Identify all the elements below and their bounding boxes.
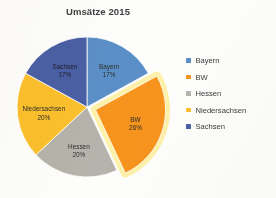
pie-slice-label-value: 20%: [73, 151, 86, 158]
legend-item-label: Hessen: [196, 89, 222, 98]
pie-slice-label-name: Hessen: [68, 143, 90, 150]
pie-chart-figure: Umsätze 2015 Bayern17%BW26%Hessen20%Nied…: [0, 0, 276, 198]
legend-swatch-icon: [186, 124, 191, 129]
pie-slice-label-name: Niedersachsen: [23, 105, 66, 112]
legend-swatch-icon: [186, 58, 191, 63]
legend-item-label: Sachsen: [196, 122, 226, 131]
legend-item-bayern[interactable]: Bayern: [186, 56, 272, 65]
legend-item-label: BW: [196, 73, 208, 82]
legend-item-label: Bayern: [196, 56, 220, 65]
legend-item-bw[interactable]: BW: [186, 73, 272, 82]
legend-swatch-icon: [186, 91, 191, 96]
pie-slice-label-name: Bayern: [99, 63, 120, 71]
pie-slice-label-name: BW: [130, 116, 141, 123]
legend-item-label: Niedersachsen: [196, 106, 247, 115]
legend-item-niedersachsen[interactable]: Niedersachsen: [186, 106, 272, 115]
legend-swatch-icon: [186, 108, 191, 113]
pie-plot-area: Bayern17%BW26%Hessen20%Niedersachsen20%S…: [0, 20, 196, 198]
legend-item-hessen[interactable]: Hessen: [186, 89, 272, 98]
pie-svg: Bayern17%BW26%Hessen20%Niedersachsen20%S…: [0, 20, 196, 198]
chart-title: Umsätze 2015: [0, 6, 196, 17]
pie-slice-label-value: 17%: [59, 71, 72, 78]
pie-slice-label-value: 20%: [38, 114, 51, 121]
pie-slice-label-name: Sachsen: [52, 63, 77, 70]
pie-slice-label-value: 17%: [103, 71, 116, 78]
chart-legend: BayernBWHessenNiedersachsenSachsen: [186, 56, 272, 131]
pie-slice-label-value: 26%: [129, 124, 142, 131]
legend-swatch-icon: [186, 75, 191, 80]
legend-item-sachsen[interactable]: Sachsen: [186, 122, 272, 131]
